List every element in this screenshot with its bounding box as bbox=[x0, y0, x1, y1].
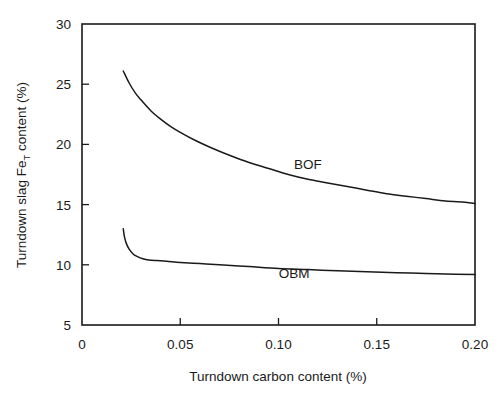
x-tick-label: 0 bbox=[78, 337, 86, 352]
chart-figure: 51015202530 00.050.100.150.20 BOF OBM Tu… bbox=[0, 0, 500, 398]
x-tick-label: 0.20 bbox=[462, 337, 488, 352]
y-tick-label: 15 bbox=[56, 198, 71, 213]
y-tick-label: 30 bbox=[56, 17, 71, 32]
x-tick-label: 0.10 bbox=[265, 337, 291, 352]
series-label-obm: OBM bbox=[279, 266, 310, 281]
chart-canvas: 51015202530 00.050.100.150.20 BOF OBM Tu… bbox=[0, 0, 500, 398]
x-tick-label: 0.15 bbox=[364, 337, 390, 352]
y-tick-label: 10 bbox=[56, 258, 71, 273]
y-tick-label: 5 bbox=[63, 318, 71, 333]
y-tick-label: 20 bbox=[56, 137, 71, 152]
y-axis-title-tail: content (%) bbox=[14, 82, 29, 155]
series-label-bof: BOF bbox=[294, 157, 322, 172]
y-tick-label: 25 bbox=[56, 77, 71, 92]
y-axis-title-main: Turndown slag Fe bbox=[14, 161, 29, 269]
x-tick-label: 0.05 bbox=[167, 337, 193, 352]
x-axis-title: Turndown carbon content (%) bbox=[189, 369, 366, 384]
